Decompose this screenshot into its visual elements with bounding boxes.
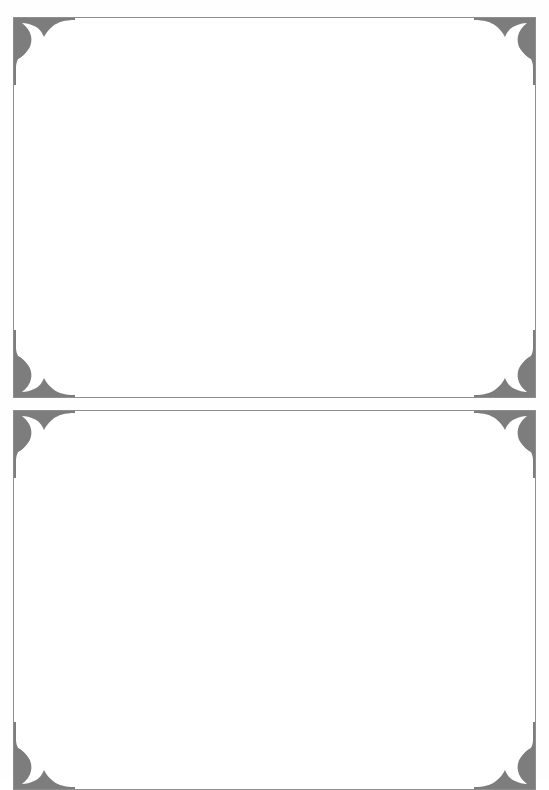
decorative-frame-top[interactable] bbox=[13, 17, 536, 398]
frame-bottom-inner bbox=[14, 411, 535, 789]
corner-ornament-bottom-right bbox=[464, 330, 535, 397]
corner-ornament-bottom-left bbox=[14, 722, 85, 789]
corner-ornament-top-right bbox=[464, 18, 535, 85]
corner-ornament-top-left bbox=[14, 18, 85, 85]
decorative-frame-bottom[interactable] bbox=[13, 410, 536, 790]
corner-ornament-top-right bbox=[464, 411, 535, 478]
corner-ornament-bottom-left bbox=[14, 330, 85, 397]
frame-bottom-content-area[interactable] bbox=[14, 411, 535, 789]
frame-top-inner bbox=[14, 18, 535, 397]
page-top-mark: · bbox=[0, 2, 549, 11]
corner-ornament-bottom-right bbox=[464, 722, 535, 789]
corner-ornament-top-left bbox=[14, 411, 85, 478]
frame-top-content-area[interactable] bbox=[14, 18, 535, 397]
